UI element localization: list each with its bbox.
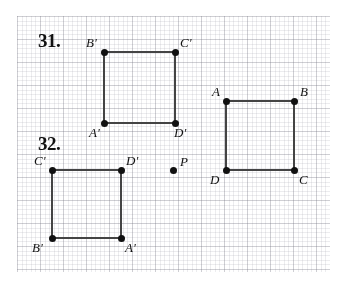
vertex-dot-a [223,98,230,105]
vertex-label-b-prime: B' [32,241,43,254]
vertex-dot-b [291,98,298,105]
vertex-label-a-prime: A' [125,241,136,254]
vertex-dot-a-prime [118,235,125,242]
vertex-label-a-prime: A' [89,126,100,139]
square-a-prime-b-prime-c-prime-d-prime-31 [104,52,175,123]
vertex-dot-d [223,167,230,174]
vertex-dot-b-prime [101,49,108,56]
vertex-dot-d-prime [118,167,125,174]
vertex-label-b-prime: B' [86,36,97,49]
vertex-label-a: A [212,85,220,98]
center-of-rotation-point-p-dot [170,167,177,174]
vertex-label-d: D [210,173,219,186]
vertex-label-d-prime: D' [174,126,186,139]
square-abcd-preimage [226,101,294,170]
center-of-rotation-point-p-label: P [180,155,188,168]
worksheet-page: 31. 32. B'C'D'A'C'D'A'B'ABCDP [0,0,340,282]
vertex-label-c-prime: C' [34,154,45,167]
vertex-label-b: B [300,85,308,98]
vertex-label-c-prime: C' [180,36,191,49]
vertex-dot-b-prime [49,235,56,242]
vertex-dot-c-prime [49,167,56,174]
vertex-label-d-prime: D' [126,154,138,167]
vertex-dot-c-prime [172,49,179,56]
vertex-dot-c [291,167,298,174]
square-a-prime-b-prime-c-prime-d-prime-32 [52,170,121,238]
figures-layer: 31. 32. B'C'D'A'C'D'A'B'ABCDP [0,0,340,282]
vertex-label-c: C [299,173,308,186]
vertex-dot-a-prime [101,120,108,127]
